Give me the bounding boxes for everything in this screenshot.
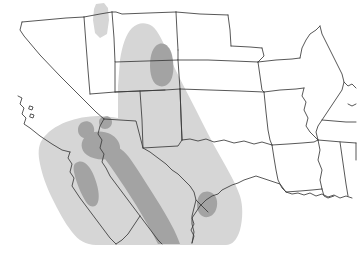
core-patch-colorado (150, 44, 173, 87)
outer-range-patch-north (93, 3, 109, 38)
map-canvas (0, 0, 358, 264)
map-container (0, 0, 358, 264)
